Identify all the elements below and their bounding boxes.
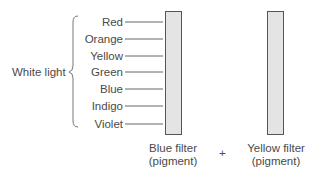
blue-filter-caption: Blue filter (pigment): [138, 142, 208, 168]
blue-filter: [165, 11, 182, 135]
plus-operator: +: [219, 147, 226, 160]
spectrum-label-orange: Orange: [85, 33, 123, 46]
spectrum-label-red: Red: [102, 16, 123, 29]
spectrum-label-blue: Blue: [100, 83, 123, 96]
spectrum-label-yellow: Yellow: [90, 50, 123, 63]
yellow-filter: [267, 11, 284, 135]
curly-brace-icon: [69, 16, 78, 127]
spectrum-label-violet: Violet: [94, 118, 123, 131]
spectrum-rays: [125, 22, 163, 124]
spectrum-label-indigo: Indigo: [92, 100, 123, 113]
spectrum-labels: Red Orange Yellow Green Blue Indigo Viol…: [80, 0, 123, 140]
spectrum-label-green: Green: [91, 66, 123, 79]
yellow-filter-caption: Yellow filter (pigment): [241, 142, 311, 168]
